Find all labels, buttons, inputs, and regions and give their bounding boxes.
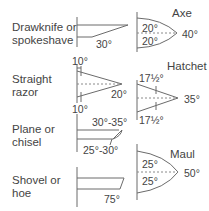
tool-label-axe: Axe <box>172 7 192 20</box>
tool-label-line: hoe <box>12 187 61 200</box>
drawknife-angle: 30° <box>96 38 112 50</box>
plane-primary-angle: 25°-30° <box>83 144 118 156</box>
tool-label-hatchet: Hatchet <box>167 60 207 73</box>
plane-secondary-angle: 30°-35° <box>92 116 127 128</box>
shovel-angle: 75° <box>104 193 120 205</box>
tool-label-line: Plane or <box>12 123 55 136</box>
razor-total-angle: 20° <box>111 88 127 100</box>
axe-total-angle: 40° <box>182 28 198 40</box>
maul-top-angle: 25° <box>142 158 158 170</box>
hatchet-total-angle: 35° <box>184 93 200 105</box>
maul-bottom-angle: 25° <box>142 175 158 187</box>
axe-bottom-angle: 20° <box>142 35 158 47</box>
tool-label-line: Shovel or <box>12 174 61 187</box>
razor-top-angle: 10° <box>72 55 88 67</box>
tool-label-plane-chisel: Plane or chisel <box>12 123 55 149</box>
hatchet-top-angle: 17½° <box>139 72 164 84</box>
tool-label-maul: Maul <box>170 148 195 161</box>
razor-bottom-angle: 10° <box>72 103 88 115</box>
tool-label-shovel-hoe: Shovel or hoe <box>12 174 61 200</box>
tool-label-drawknife: Drawknife or spokeshave <box>12 21 77 47</box>
hatchet-bottom-angle: 17½° <box>139 114 164 126</box>
tool-label-line: Drawknife or <box>12 21 77 34</box>
tool-label-line: spokeshave <box>12 34 77 47</box>
tool-label-line: razor <box>12 86 52 99</box>
tool-label-line: Straight <box>12 73 52 86</box>
tool-label-straight-razor: Straight razor <box>12 73 52 99</box>
tool-label-line: chisel <box>12 136 55 149</box>
axe-top-angle: 20° <box>142 22 158 34</box>
maul-total-angle: 50° <box>184 167 200 179</box>
bevel-angle-diagram: Drawknife or spokeshave Straight razor P… <box>0 0 209 211</box>
